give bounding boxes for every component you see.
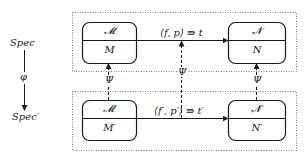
box-M-prime-lower: M′ bbox=[82, 123, 137, 133]
psi-middle-label: Ψ bbox=[177, 67, 188, 77]
box-M-upper: 𝓜 bbox=[82, 26, 137, 36]
spec-prime-label: Spec′ bbox=[12, 112, 39, 122]
box-N-prime-lower: N′ bbox=[228, 123, 286, 133]
box-N-lower: N bbox=[228, 45, 286, 55]
box-N-prime-upper: 𝓝′ bbox=[228, 104, 286, 114]
spec-label: Spec bbox=[10, 38, 35, 48]
box-M-prime-upper: 𝓜′ bbox=[82, 104, 137, 114]
psi-left-label: Ψ bbox=[104, 75, 115, 85]
top-transition-label: ⟨f, p⟩ ⇛ t bbox=[160, 28, 203, 38]
bottom-transition-label: ⟨f′, p′⟩ ⇛ t′ bbox=[154, 106, 204, 116]
phi-label: φ bbox=[20, 72, 27, 82]
psi-right-label: Ψ bbox=[252, 75, 263, 85]
box-N-upper: 𝓝 bbox=[228, 26, 286, 36]
box-M-lower: M bbox=[82, 45, 137, 55]
